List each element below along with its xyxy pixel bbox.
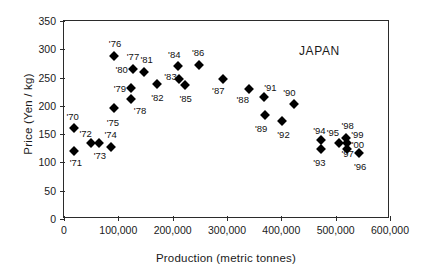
data-point [218, 74, 228, 84]
data-point-label: '74 [105, 129, 117, 140]
data-point-label: '95 [327, 127, 339, 138]
scatter-chart: Price (Yen / kg) Production (metric tonn… [0, 0, 424, 279]
data-point-label: '85 [180, 92, 192, 103]
data-point-label: '96 [354, 161, 366, 172]
x-axis-tick-label: 300,000 [208, 224, 246, 236]
data-point [173, 61, 183, 71]
data-point [289, 99, 299, 109]
x-axis-tick-label: 0 [61, 224, 67, 236]
x-axis-tick [118, 216, 119, 221]
data-point-label: '80 [115, 63, 127, 74]
data-point [180, 81, 190, 91]
x-axis-title: Production (metric tonnes) [63, 252, 389, 264]
y-axis-tick [60, 191, 65, 192]
data-point [244, 84, 254, 94]
data-point-label: '91 [264, 81, 276, 92]
x-axis-tick [336, 216, 337, 221]
y-axis-tick-label: 100 [38, 156, 56, 168]
data-point [316, 135, 326, 145]
data-point-label: '71 [70, 157, 82, 168]
data-point [126, 94, 136, 104]
data-point-label: '70 [66, 111, 78, 122]
data-point [354, 148, 364, 158]
y-axis-tick-label: 350 [38, 15, 56, 27]
data-point [277, 116, 287, 126]
data-point [109, 51, 119, 61]
data-point-label: '78 [134, 105, 146, 116]
data-point-label: '83 [164, 70, 176, 81]
x-axis-tick-label: 500,000 [317, 224, 355, 236]
x-axis-tick [390, 216, 391, 221]
x-axis-tick [64, 216, 65, 221]
data-point [152, 79, 162, 89]
x-axis-tick [173, 216, 174, 221]
data-point-label: '81 [140, 54, 152, 65]
data-point-label: '82 [151, 91, 163, 102]
data-point-label: '79 [114, 82, 126, 93]
data-point [126, 83, 136, 93]
data-point-label: '76 [109, 38, 121, 49]
data-point-label: '86 [192, 46, 204, 57]
y-axis-tick-label: 250 [38, 72, 56, 84]
data-point [94, 138, 104, 148]
y-axis-tick [60, 162, 65, 163]
y-axis-tick [60, 106, 65, 107]
data-point-label: '87 [212, 85, 224, 96]
x-axis-tick-label: 600,000 [371, 224, 409, 236]
data-point [260, 110, 270, 120]
data-point-label: '84 [168, 48, 180, 59]
data-point-label: '75 [107, 116, 119, 127]
y-axis-tick [60, 134, 65, 135]
data-point-label: '94 [313, 125, 325, 136]
data-point [69, 124, 79, 134]
data-point [128, 64, 138, 74]
data-point-label: '90 [283, 87, 295, 98]
data-point [109, 103, 119, 113]
x-axis-tick-label: 100,000 [99, 224, 137, 236]
data-point [316, 144, 326, 154]
y-axis-tick [60, 49, 65, 50]
data-point-label: '72 [80, 128, 92, 139]
data-point-label: '77 [127, 51, 139, 62]
data-point [139, 67, 149, 77]
data-point-label: '88 [237, 94, 249, 105]
x-axis-tick-label: 200,000 [154, 224, 192, 236]
data-point-label: '92 [277, 129, 289, 140]
series-annotation-label: JAPAN [299, 44, 340, 58]
y-axis-tick-label: 0 [50, 213, 56, 225]
data-point-label: '00 [352, 138, 364, 149]
x-axis-tick-label: 400,000 [262, 224, 300, 236]
data-point [259, 92, 269, 102]
data-point [194, 60, 204, 70]
y-axis-tick-label: 150 [38, 128, 56, 140]
x-axis-tick [227, 216, 228, 221]
y-axis-title: Price (Yen / kg) [22, 24, 34, 204]
data-point [69, 146, 79, 156]
data-point-label: '93 [313, 157, 325, 168]
data-point-label: '89 [255, 123, 267, 134]
y-axis-tick-label: 300 [38, 43, 56, 55]
data-point [106, 142, 116, 152]
y-axis-tick-label: 200 [38, 100, 56, 112]
y-axis-tick [60, 21, 65, 22]
y-axis-tick [60, 78, 65, 79]
y-axis-tick-label: 50 [44, 185, 56, 197]
plot-area: 050100150200250300350 0100,000200,000300… [63, 20, 389, 218]
data-point-label: '73 [94, 150, 106, 161]
x-axis-tick [281, 216, 282, 221]
